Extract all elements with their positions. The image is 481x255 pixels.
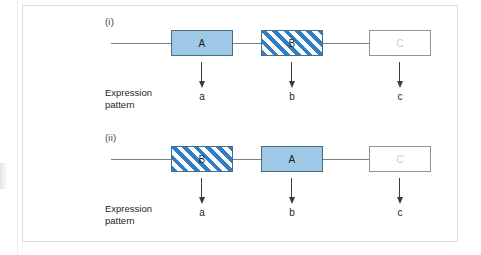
panel-i: (i) A B C a b c Expression pattern xyxy=(23,6,457,124)
arrow-shaft xyxy=(399,62,400,83)
panel-i-label: (i) xyxy=(105,16,114,27)
panel-i-pathway: A B C xyxy=(23,30,457,56)
arrow-shaft xyxy=(291,178,292,199)
gene-box-a[interactable]: A xyxy=(261,146,323,172)
panel-ii-pathway: B A C xyxy=(23,146,457,172)
expression-arrow-2 xyxy=(287,178,296,205)
arrow-shaft xyxy=(201,62,202,83)
caption-line-1: Expression xyxy=(105,203,152,215)
expression-output-a: a xyxy=(192,207,212,218)
panel-ii: (ii) B A C a b c Expression pattern xyxy=(23,124,457,243)
arrow-shaft xyxy=(399,178,400,199)
arrow-head-icon xyxy=(397,197,403,204)
gene-box-c[interactable]: C xyxy=(369,30,431,56)
connector-line-left xyxy=(111,43,171,44)
arrow-head-icon xyxy=(289,81,295,88)
connector-line-right xyxy=(323,43,369,44)
expression-output-b: b xyxy=(282,91,302,102)
expression-output-c: c xyxy=(390,207,410,218)
panel-ii-caption: Expression pattern xyxy=(105,203,152,227)
arrow-shaft xyxy=(291,62,292,83)
expression-arrow-2 xyxy=(287,62,296,89)
gene-box-a[interactable]: A xyxy=(171,30,233,56)
connector-line-middle xyxy=(233,43,261,44)
caption-line-1: Expression xyxy=(105,87,152,99)
expression-output-a: a xyxy=(192,91,212,102)
expression-arrow-1 xyxy=(197,62,206,89)
arrow-head-icon xyxy=(199,81,205,88)
connector-line-left xyxy=(111,159,171,160)
arrow-shaft xyxy=(201,178,202,199)
connector-line-middle xyxy=(233,159,261,160)
caption-line-2: pattern xyxy=(105,99,152,111)
gene-box-b[interactable]: B xyxy=(171,146,233,172)
expression-output-b: b xyxy=(282,207,302,218)
expression-output-c: c xyxy=(390,91,410,102)
expression-arrow-3 xyxy=(395,178,404,205)
arrow-head-icon xyxy=(199,197,205,204)
page-edge-line xyxy=(17,0,18,255)
arrow-head-icon xyxy=(397,81,403,88)
caption-line-2: pattern xyxy=(105,215,152,227)
connector-line-right xyxy=(323,159,369,160)
expression-arrow-3 xyxy=(395,62,404,89)
panel-i-caption: Expression pattern xyxy=(105,87,152,111)
figure-frame: (i) A B C a b c Expression pattern xyxy=(22,5,458,242)
scan-edge-artifact xyxy=(0,163,7,189)
arrow-head-icon xyxy=(289,197,295,204)
expression-arrow-1 xyxy=(197,178,206,205)
panel-ii-label: (ii) xyxy=(105,132,116,143)
gene-box-b[interactable]: B xyxy=(261,30,323,56)
gene-box-c[interactable]: C xyxy=(369,146,431,172)
